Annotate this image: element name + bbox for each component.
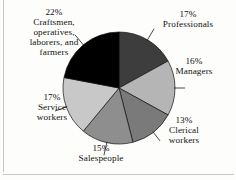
slice-name-service-line2: workers — [21, 113, 83, 123]
leader-line — [147, 29, 154, 41]
slice-name-managers: Managers — [156, 67, 232, 77]
pie-chart-figure: 22% Craftsmen, operatives, laborers, and… — [0, 0, 236, 180]
slice-label-salespeople: 15% Salespeople — [56, 144, 146, 164]
slice-name-professionals: Professionals — [144, 20, 232, 30]
slice-label-clerical: 13% Clerical workers — [150, 116, 218, 146]
slice-name-craftsmen-line4: farmers — [4, 48, 104, 58]
slice-label-service: 17% Service workers — [21, 93, 83, 123]
slice-label-managers: 16% Managers — [156, 57, 232, 77]
slice-name-salespeople: Salespeople — [56, 154, 146, 164]
slice-label-craftsmen: 22% Craftsmen, operatives, laborers, and… — [4, 8, 104, 58]
slice-label-professionals: 17% Professionals — [144, 10, 232, 30]
slice-name-clerical-line2: workers — [150, 136, 218, 146]
chart-area: 22% Craftsmen, operatives, laborers, and… — [0, 0, 236, 180]
